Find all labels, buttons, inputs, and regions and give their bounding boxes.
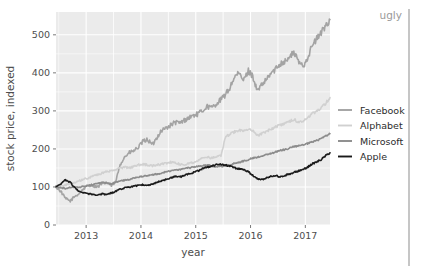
chart-canvas: 0100200300400500 20132014201520162017 st…	[0, 0, 423, 274]
y-tick-label: 0	[44, 219, 50, 230]
chart-legend: FacebookAlphabetMicrosoftApple	[338, 105, 405, 163]
y-tick-label: 500	[32, 29, 50, 40]
legend-label-alphabet[interactable]: Alphabet	[360, 120, 403, 131]
y-axis-title: stock price, indexed	[4, 66, 16, 172]
x-axis: 20132014201520162017	[74, 225, 317, 241]
y-tick-label: 400	[32, 67, 50, 78]
plot-panel	[56, 12, 330, 225]
x-tick-label: 2016	[238, 230, 262, 241]
legend-label-microsoft[interactable]: Microsoft	[360, 136, 404, 147]
y-tick-label: 100	[32, 181, 50, 192]
chart-figure: 0100200300400500 20132014201520162017 st…	[0, 0, 423, 274]
x-tick-label: 2014	[129, 230, 153, 241]
y-axis: 0100200300400500	[32, 29, 56, 230]
legend-label-facebook[interactable]: Facebook	[360, 105, 405, 116]
x-tick-label: 2013	[74, 230, 98, 241]
panel-background	[56, 12, 330, 225]
legend-label-apple[interactable]: Apple	[360, 151, 387, 162]
y-tick-label: 300	[32, 105, 50, 116]
x-tick-label: 2015	[184, 230, 208, 241]
annotation-ugly-label: ugly	[380, 9, 402, 21]
y-tick-label: 200	[32, 143, 50, 154]
x-axis-title: year	[181, 246, 205, 258]
x-tick-label: 2017	[293, 230, 317, 241]
